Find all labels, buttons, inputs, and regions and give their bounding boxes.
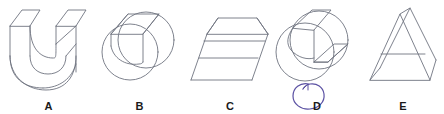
shape-trapezoidal-prism	[185, 0, 275, 96]
shape-u-channel-block	[0, 0, 97, 96]
shape-triangular-prism	[362, 0, 444, 96]
option-d[interactable]: D	[272, 0, 362, 114]
option-a[interactable]: A	[0, 0, 97, 114]
shape-quarter-notched-cylinder	[272, 0, 362, 96]
option-e-label: E	[362, 100, 444, 112]
option-b[interactable]: B	[97, 0, 182, 114]
option-b-label: B	[97, 100, 182, 112]
option-d-label: D	[272, 100, 362, 112]
shape-notched-cylinder	[97, 0, 182, 96]
option-a-label: A	[0, 100, 97, 112]
option-c[interactable]: C	[185, 0, 275, 114]
option-c-label: C	[185, 100, 275, 112]
option-e[interactable]: E	[362, 0, 444, 114]
multiple-choice-shape-figure: A B	[0, 0, 444, 114]
